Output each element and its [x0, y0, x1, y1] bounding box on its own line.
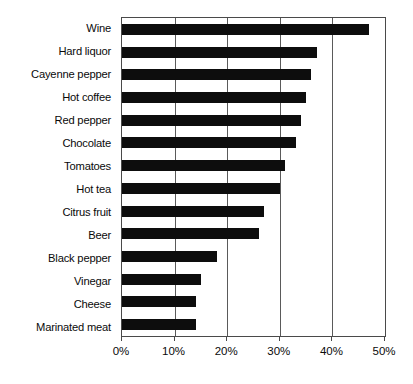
bar-row — [122, 313, 385, 336]
plot-area — [121, 17, 386, 337]
bar — [122, 92, 306, 103]
bar-row — [122, 291, 385, 314]
bar — [122, 319, 196, 330]
category-label: Hot tea — [76, 183, 111, 195]
bar — [122, 160, 285, 171]
axis-tickmark — [331, 337, 332, 341]
bar — [122, 69, 311, 80]
bar-row — [122, 245, 385, 268]
bar-row — [122, 268, 385, 291]
category-label: Vinegar — [74, 275, 111, 287]
bar — [122, 115, 301, 126]
axis-tickmark — [121, 337, 122, 341]
category-axis: Wine Hard liquor Cayenne pepper Hot coff… — [0, 16, 116, 338]
bar-row — [122, 18, 385, 41]
bar — [122, 137, 296, 148]
category-label: Hot coffee — [62, 91, 111, 103]
bar — [122, 228, 259, 239]
category-label: Cheese — [74, 298, 111, 310]
bar-row — [122, 109, 385, 132]
bar — [122, 183, 280, 194]
category-label: Tomatoes — [64, 160, 111, 172]
axis-tickmark — [174, 337, 175, 341]
bar-row — [122, 200, 385, 223]
category-label: Red pepper — [55, 114, 111, 126]
category-label: Hard liquor — [58, 45, 111, 57]
value-axis-tickmarks — [121, 337, 386, 343]
category-label: Black pepper — [48, 252, 111, 264]
category-label: Chocolate — [62, 137, 111, 149]
gridline — [385, 18, 386, 336]
bar-row — [122, 86, 385, 109]
category-label: Citrus fruit — [62, 206, 111, 218]
axis-tickmark — [279, 337, 280, 341]
bar — [122, 47, 317, 58]
bar-row — [122, 132, 385, 155]
category-label: Beer — [88, 229, 111, 241]
axis-tick-label: 20% — [215, 344, 238, 358]
bar-row — [122, 63, 385, 86]
value-axis-labels: 0%10%20%30%40%50% — [121, 344, 386, 364]
axis-tickmark — [226, 337, 227, 341]
bar — [122, 251, 217, 262]
axis-tick-label: 0% — [113, 344, 130, 358]
bar-row — [122, 177, 385, 200]
category-label: Marinated meat — [36, 321, 111, 333]
bar-series — [122, 18, 385, 336]
bar — [122, 206, 264, 217]
bar — [122, 274, 201, 285]
axis-tick-label: 10% — [162, 344, 185, 358]
bar-row — [122, 154, 385, 177]
bar-chart: Wine Hard liquor Cayenne pepper Hot coff… — [0, 0, 413, 384]
bar — [122, 296, 196, 307]
bar-row — [122, 41, 385, 64]
axis-tick-label: 50% — [372, 344, 395, 358]
bar-row — [122, 222, 385, 245]
axis-tick-label: 30% — [267, 344, 290, 358]
axis-tick-label: 40% — [320, 344, 343, 358]
category-label: Wine — [86, 22, 111, 34]
bar — [122, 24, 369, 35]
category-label: Cayenne pepper — [31, 68, 111, 80]
axis-tickmark — [384, 337, 385, 341]
